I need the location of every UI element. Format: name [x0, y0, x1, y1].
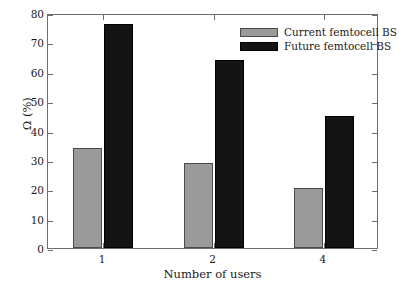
x-tick-label: 4: [303, 254, 343, 265]
legend-label-future: Future femtocell BS: [284, 41, 391, 52]
y-axis-tick: [48, 74, 53, 75]
y-tick-label: 30: [4, 156, 44, 167]
y-axis-tick: [48, 162, 53, 163]
figure-canvas: Ω (%) Number of users 01020304050607080 …: [0, 0, 399, 290]
x-axis-tick: [324, 243, 325, 248]
y-axis-tick: [372, 133, 377, 134]
x-axis-tick: [214, 15, 215, 20]
legend-item-future: Future femtocell BS: [240, 40, 376, 52]
y-axis-tick: [48, 250, 53, 251]
legend-swatch-future: [240, 42, 278, 51]
y-tick-label: 60: [4, 68, 44, 79]
x-axis-tick: [103, 15, 104, 20]
y-axis-tick: [48, 221, 53, 222]
legend-swatch-current: [240, 28, 278, 37]
bar-future-4: [325, 116, 354, 248]
y-axis-tick: [48, 15, 53, 16]
y-axis-tick: [48, 133, 53, 134]
y-axis-tick: [372, 15, 377, 16]
bar-current-1: [73, 148, 102, 248]
y-axis-tick: [48, 191, 53, 192]
bar-future-2: [215, 60, 244, 248]
bar-current-2: [184, 163, 213, 248]
y-axis-tick: [372, 162, 377, 163]
x-tick-label: 2: [193, 254, 233, 265]
x-tick-label: 1: [82, 254, 122, 265]
y-tick-label: 80: [4, 9, 44, 20]
y-axis-tick: [372, 221, 377, 222]
legend-item-current: Current femtocell BS: [240, 26, 376, 38]
y-axis-tick: [48, 103, 53, 104]
y-tick-label: 50: [4, 97, 44, 108]
y-axis-tick: [48, 44, 53, 45]
y-tick-label: 40: [4, 127, 44, 138]
y-tick-label: 10: [4, 215, 44, 226]
y-tick-label: 70: [4, 38, 44, 49]
legend-label-current: Current femtocell BS: [284, 27, 397, 38]
chart-legend: Current femtocell BS Future femtocell BS: [240, 26, 376, 54]
x-axis-tick: [324, 15, 325, 20]
y-tick-label: 0: [4, 244, 44, 255]
y-axis-tick: [372, 250, 377, 251]
x-axis-tick: [103, 243, 104, 248]
x-axis-title: Number of users: [47, 269, 378, 281]
bar-current-4: [294, 188, 323, 248]
bar-future-1: [104, 24, 133, 248]
y-axis-tick: [372, 103, 377, 104]
y-axis-tick: [372, 191, 377, 192]
y-tick-label: 20: [4, 185, 44, 196]
y-axis-tick: [372, 74, 377, 75]
x-axis-tick: [214, 243, 215, 248]
